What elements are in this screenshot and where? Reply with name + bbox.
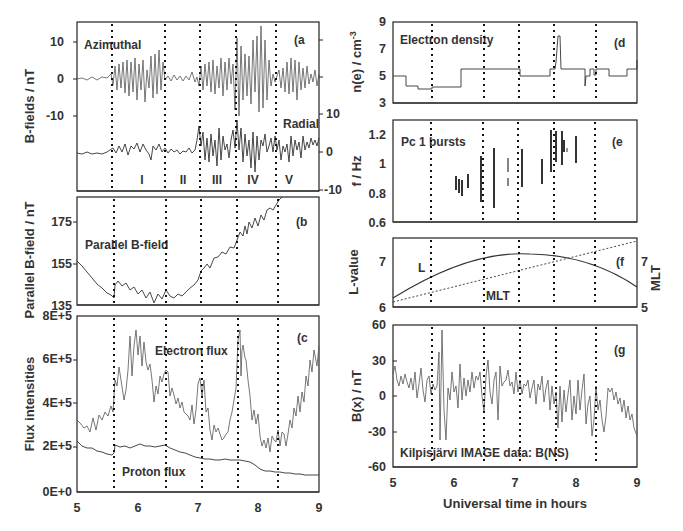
panel-a-label: (a	[294, 33, 305, 47]
tick: 6E+5	[42, 352, 72, 366]
tick: 10	[50, 35, 64, 49]
tick: 6	[379, 301, 386, 315]
radial-label: Radial	[283, 117, 319, 131]
x-tick: 7	[512, 476, 519, 490]
x-tick: 5	[390, 476, 397, 490]
tick: 0	[379, 389, 386, 403]
tick: 7	[641, 255, 648, 269]
panel-e: f / Hz 1.2 1 0.8 0.6 Pc 1 bursts (e	[349, 120, 637, 230]
tick: -10	[324, 183, 342, 197]
tick: -10	[46, 109, 64, 123]
tick: 7	[379, 42, 386, 56]
tick: 5	[641, 301, 648, 315]
figure: B-fields / nT 10 0 -10 10 0 -10 Azimutha…	[0, 0, 683, 531]
x-tick: 8	[573, 476, 580, 490]
tick: 5	[379, 69, 386, 83]
interval-V: V	[285, 173, 293, 187]
tick: 30	[372, 354, 386, 368]
tick: 8E+5	[42, 309, 72, 323]
tick: -60	[368, 460, 386, 474]
panel-e-ylabel: f / Hz	[349, 155, 364, 187]
panel-d: n(e) / cm-3 9 7 5 3 Electron density (d	[348, 15, 637, 110]
panel-g-label: (g	[614, 343, 625, 357]
interval-II: II	[180, 173, 187, 187]
tick: 155	[51, 257, 72, 271]
panel-f-ylabel: L-value	[346, 249, 361, 295]
panel-d-label: (d	[614, 36, 625, 50]
panel-d-ylabel: n(e) / cm-3	[348, 31, 364, 92]
panel-f: L-value MLT 7 6 7 5 L MLT (f	[346, 238, 663, 315]
x-tick: 5	[74, 501, 81, 515]
pc1-bursts-annotation: Pc 1 bursts	[401, 135, 466, 149]
x-axis-label: Universal time in hours	[443, 496, 587, 511]
tick: 0E+0	[42, 485, 72, 499]
tick: 175	[51, 215, 72, 229]
tick: 0.8	[369, 187, 386, 201]
tick: 3	[379, 96, 386, 110]
panel-a-ylabel: B-fields / nT	[22, 69, 37, 143]
proton-flux-label: Proton flux	[122, 465, 186, 479]
L-curve-label: L	[418, 261, 425, 275]
tick: 2E+5	[42, 439, 72, 453]
interval-I: I	[140, 173, 143, 187]
panel-f-y2label: MLT	[648, 265, 663, 291]
L-value-curve	[393, 254, 637, 298]
tick: 7	[379, 255, 386, 269]
panel-c-ylabel: Flux intensities	[22, 357, 37, 452]
panel-b-label: (b	[296, 215, 307, 229]
parallel-b-annotation: Parallel B-field	[85, 238, 168, 252]
panel-e-label: (e	[612, 135, 623, 149]
tick: -30	[368, 425, 386, 439]
MLT-curve-label: MLT	[486, 289, 510, 303]
interval-III: III	[212, 173, 222, 187]
panel-a: B-fields / nT 10 0 -10 10 0 -10 Azimutha…	[22, 22, 342, 197]
x-tick: 9	[316, 501, 323, 515]
electron-density-annotation: Electron density	[400, 33, 494, 47]
MLT-line	[393, 241, 637, 302]
x-tick: 6	[451, 476, 458, 490]
tick: 1	[379, 157, 386, 171]
pc1-burst-bars	[456, 130, 576, 208]
x-tick: 7	[195, 501, 202, 515]
tick: 0	[57, 72, 64, 86]
panel-c-label: (c	[297, 331, 308, 345]
tick: 4E+5	[42, 396, 72, 410]
tick: 9	[379, 15, 386, 29]
x-tick: 9	[634, 476, 641, 490]
tick: 0.6	[369, 216, 386, 230]
tick: 1.2	[369, 128, 386, 142]
x-tick: 6	[135, 501, 142, 515]
bx-trace	[393, 330, 637, 440]
panel-b: Parallel B-field / nT 175 155 135 Parall…	[22, 197, 319, 319]
panel-b-ylabel: Parallel B-field / nT	[22, 201, 37, 318]
interval-IV: IV	[247, 173, 258, 187]
panel-f-label: (f	[616, 255, 625, 269]
tick: 60	[372, 318, 386, 332]
panel-f-frame	[393, 238, 637, 307]
panel-c: Flux intensities 8E+5 6E+5 4E+5 2E+5 0E+…	[22, 309, 323, 515]
x-tick: 8	[255, 501, 262, 515]
tick: 0	[326, 145, 333, 159]
tick: 10	[326, 107, 340, 121]
panel-g-ylabel: B(x) / nT	[349, 370, 364, 422]
